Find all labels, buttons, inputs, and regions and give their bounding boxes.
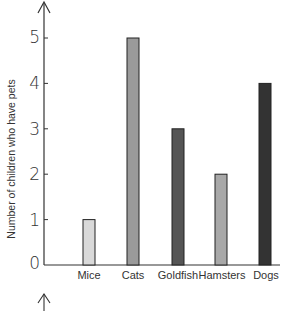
bar-hamsters: [215, 174, 227, 265]
bar-goldfish: [172, 129, 184, 265]
y-tick-4: 4: [22, 74, 40, 92]
y-tick-2: 2: [22, 165, 40, 183]
y-tick-1: 1: [22, 211, 40, 229]
bar-mice: [83, 220, 95, 265]
bar-chart: Number of children who have pets 0 1 2 3…: [0, 0, 284, 311]
y-tick-3: 3: [22, 120, 40, 138]
y-tick-0: 0: [22, 254, 40, 272]
y-axis-label: Number of children who have pets: [5, 79, 19, 239]
y-tick-5: 5: [22, 28, 40, 46]
bar-dogs: [259, 83, 271, 265]
bars: [83, 38, 271, 265]
plot-area: [0, 0, 284, 311]
bar-cats: [127, 38, 139, 265]
category-label-dogs: Dogs: [236, 269, 284, 281]
